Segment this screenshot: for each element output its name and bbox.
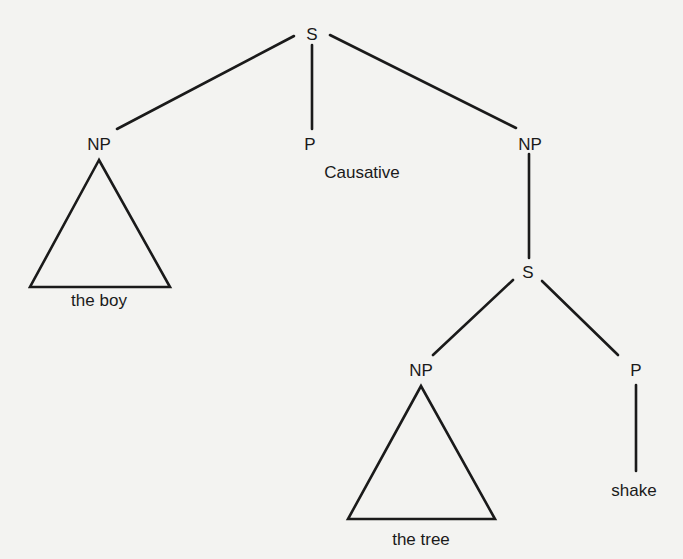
triangle-the-tree bbox=[348, 386, 495, 519]
node-np-right: NP bbox=[518, 136, 542, 153]
leaf-causative: Causative bbox=[324, 164, 400, 181]
leaf-the-tree: the tree bbox=[392, 531, 450, 548]
edge-s-np-left bbox=[117, 36, 294, 129]
tree-edges bbox=[0, 0, 683, 559]
leaf-shake: shake bbox=[611, 482, 656, 499]
edge-s-np-embedded bbox=[433, 280, 513, 355]
edge-s-np-right bbox=[330, 35, 516, 128]
node-np-left: NP bbox=[87, 136, 111, 153]
node-root-s: S bbox=[306, 26, 317, 43]
node-np-embedded: NP bbox=[409, 362, 433, 379]
node-p-causative: P bbox=[304, 136, 315, 153]
edge-s-p-embedded bbox=[542, 281, 618, 355]
syntax-tree-diagram: S NP P Causative NP S NP P the boy the t… bbox=[0, 0, 683, 559]
node-p-embedded: P bbox=[630, 362, 641, 379]
node-embedded-s: S bbox=[522, 264, 533, 281]
triangle-the-boy bbox=[30, 160, 170, 287]
leaf-the-boy: the boy bbox=[71, 292, 127, 309]
